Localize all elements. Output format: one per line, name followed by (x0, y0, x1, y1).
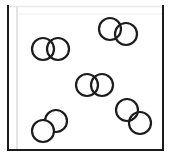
atom-circle (99, 18, 121, 40)
atom-circle (116, 99, 138, 121)
atom-circle (32, 120, 54, 142)
container-box (0, 0, 169, 157)
gas-particle-diagram: Gas particle diagram Five diatomic molec… (0, 0, 169, 157)
